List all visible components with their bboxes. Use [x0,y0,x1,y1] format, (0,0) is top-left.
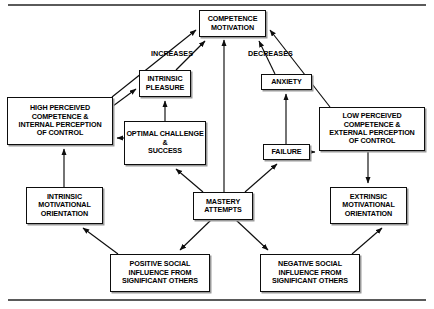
node-mastery-attempts[interactable]: MASTERY ATTEMPTS [193,192,253,220]
edge-high-perceived-to-intrinsic-pleasure [113,89,136,106]
node-anxiety[interactable]: ANXIETY [261,74,312,90]
node-intrinsic-pleasure[interactable]: INTRINSIC PLEASURE [139,70,191,97]
node-high-perceived-competence[interactable]: HIGH PERCEIVED COMPETENCE & INTERNAL PER… [7,97,113,145]
node-extrinsic-motivational-orientation[interactable]: EXTRINSIC MOTIVATIONAL ORIENTATION [330,187,407,224]
node-optimal-challenge-success[interactable]: OPTIMAL CHALLENGE & SUCCESS [124,121,206,165]
node-low-perceived-competence[interactable]: LOW PERCEIVED COMPETENCE & EXTERNAL PERC… [319,107,425,151]
node-intrinsic-motivational-orientation[interactable]: INTRINSIC MOTIVATIONAL ORIENTATION [26,187,103,224]
edge-layer [0,0,434,309]
edge-low-perceived-to-competence-motivation [270,30,330,107]
node-negative-social-influence[interactable]: NEGATIVE SOCIAL INFLUENCE FROM SIGNIFICA… [260,254,360,292]
node-competence-motivation[interactable]: COMPETENCE MOTIVATION [199,10,266,37]
edge-positive-social-to-intrinsic-orientation [83,228,118,254]
edge-mastery-attempts-to-negative-social [236,220,268,250]
diagram-canvas: COMPETENCE MOTIVATION INTRINSIC PLEASURE… [0,0,434,309]
node-failure[interactable]: FAILURE [263,144,310,160]
edge-mastery-attempts-to-failure [245,164,277,192]
edge-negative-social-to-extrinsic-orientation [352,228,382,254]
node-positive-social-influence[interactable]: POSITIVE SOCIAL INFLUENCE FROM SIGNIFICA… [110,254,210,292]
edge-label-decreases: DECREASES [248,49,293,58]
edge-mastery-attempts-to-optimal-challenge [176,169,203,192]
edge-mastery-attempts-to-positive-social [180,220,211,250]
edge-label-increases: INCREASES [151,49,193,58]
